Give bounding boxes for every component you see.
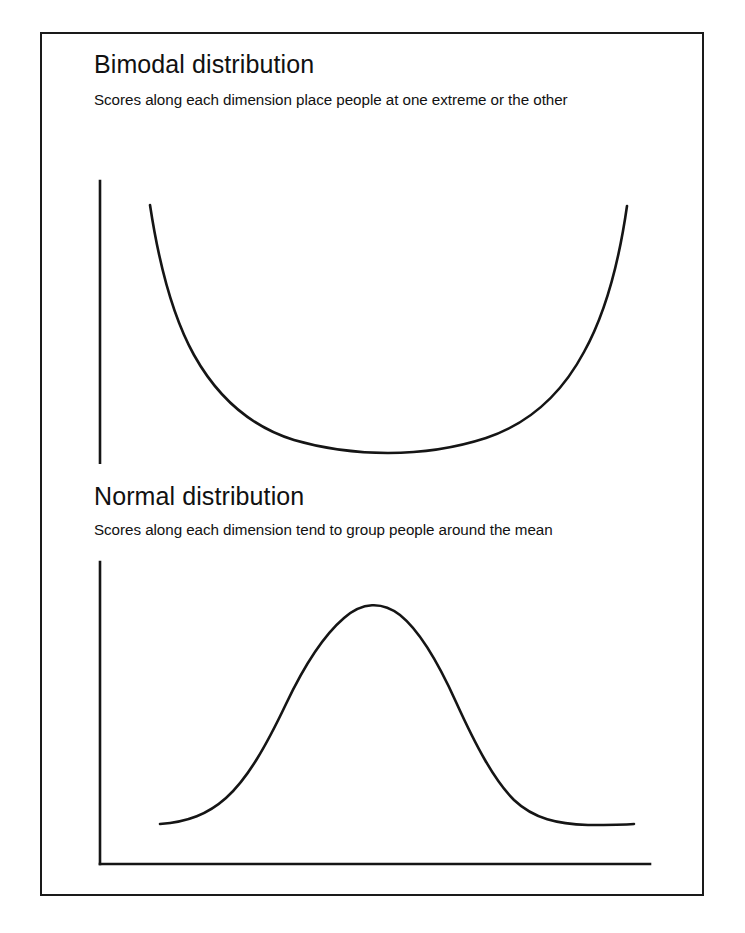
- normal-chart-svg: [42, 552, 706, 892]
- normal-density-curve: [160, 605, 634, 825]
- bimodal-chart-plot: [42, 139, 706, 464]
- panel-normal-subtitle: Scores along each dimension tend to grou…: [94, 520, 553, 539]
- panel-bimodal-subtitle: Scores along each dimension place people…: [94, 90, 568, 109]
- bimodal-chart-svg: [42, 139, 706, 464]
- panel-normal: Normal distribution Scores along each di…: [42, 474, 706, 898]
- panel-bimodal-title: Bimodal distribution: [94, 50, 314, 78]
- bimodal-density-curve: [150, 205, 627, 453]
- panel-normal-title: Normal distribution: [94, 482, 304, 510]
- figure-border: Bimodal distribution Scores along each d…: [40, 32, 704, 896]
- normal-chart-plot: [42, 552, 706, 892]
- distribution-figure: Bimodal distribution Scores along each d…: [0, 0, 745, 933]
- panel-bimodal: Bimodal distribution Scores along each d…: [42, 34, 706, 474]
